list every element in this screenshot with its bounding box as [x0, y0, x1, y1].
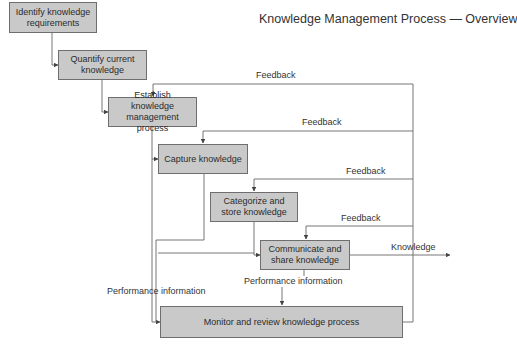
step-quantify: Quantify current knowledge — [58, 50, 147, 80]
performance-info-center-label: Performance information — [244, 276, 343, 286]
step-monitor: Monitor and review knowledge process — [160, 306, 403, 338]
feedback-label-1: Feedback — [256, 70, 296, 80]
performance-info-left-label: Performance information — [107, 286, 206, 296]
edge-categorize-communicate — [158, 222, 254, 253]
feedback-line-3 — [254, 179, 413, 191]
step-establish: Establish knowledge management process — [108, 97, 197, 127]
feedback-trunk — [402, 84, 413, 322]
feedback-line-4 — [306, 226, 413, 239]
step-categorize: Categorize and store knowledge — [210, 192, 298, 222]
feedback-label-4: Feedback — [341, 213, 381, 223]
step-communicate: Communicate and share knowledge — [260, 240, 350, 270]
edge-capture-monitor — [156, 174, 204, 322]
feedback-label-2: Feedback — [302, 117, 342, 127]
feedback-line-2 — [203, 131, 413, 143]
feedback-label-3: Feedback — [346, 166, 386, 176]
step-identify: Identify knowledge requirements — [9, 2, 97, 33]
step-capture: Capture knowledge — [158, 144, 248, 174]
knowledge-output-label: Knowledge — [391, 242, 436, 252]
diagram-title: Knowledge Management Process — Overview — [259, 12, 517, 26]
